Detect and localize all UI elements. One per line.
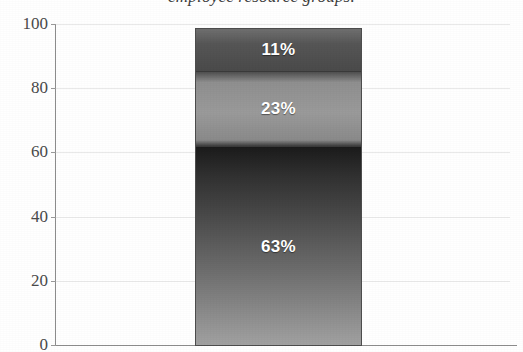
chart-title: employee resource groups. <box>0 0 523 7</box>
bar-segment-top[interactable]: 11% <box>196 29 361 71</box>
stacked-bar[interactable]: 11% 23% 63% <box>195 28 362 346</box>
bar-segment-label-middle: 23% <box>261 99 296 119</box>
y-tick-mark-100 <box>51 24 56 25</box>
y-tick-label-0: 0 <box>4 335 48 352</box>
y-tick-mark-20 <box>51 281 56 282</box>
y-axis-line <box>55 24 56 346</box>
y-tick-mark-40 <box>51 217 56 218</box>
y-tick-label-80: 80 <box>4 78 48 98</box>
bar-segment-label-bottom: 63% <box>261 237 296 257</box>
y-tick-mark-80 <box>51 88 56 89</box>
y-tick-label-20: 20 <box>4 271 48 291</box>
bar-segment-bottom[interactable]: 63% <box>196 146 361 346</box>
bar-chart: employee resource groups. 100 80 60 40 2… <box>0 0 523 352</box>
bar-segment-middle[interactable]: 23% <box>196 71 361 146</box>
y-tick-label-100: 100 <box>4 14 48 34</box>
y-tick-label-60: 60 <box>4 142 48 162</box>
gridline-100 <box>56 24 510 25</box>
y-tick-mark-60 <box>51 152 56 153</box>
bar-segment-label-top: 11% <box>262 40 296 60</box>
y-tick-label-40: 40 <box>4 207 48 227</box>
y-tick-mark-0 <box>51 345 56 346</box>
